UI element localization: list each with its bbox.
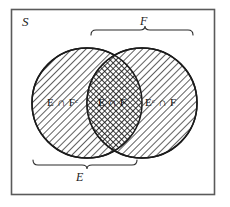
venn-diagram-figure: S F E E ∩ Fᶜ E ∩ F Eᶜ ∩ F <box>0 0 230 207</box>
universe-label: S <box>22 14 29 30</box>
region-label-intersection: E ∩ F <box>98 96 126 108</box>
brace-top-label: F <box>140 14 147 29</box>
region-label-right-only: Eᶜ ∩ F <box>145 96 177 108</box>
region-label-left-only: E ∩ Fᶜ <box>47 96 79 108</box>
brace-bottom-label: E <box>76 170 83 185</box>
